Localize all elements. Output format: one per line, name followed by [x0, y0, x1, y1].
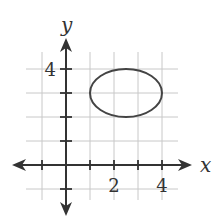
x-axis-label: x	[200, 153, 211, 177]
y-axis-label: y	[60, 13, 73, 37]
y-tick-label-4: 4	[45, 59, 56, 80]
x-axis	[12, 159, 192, 171]
coordinate-plane: 2 4 4 x y	[0, 0, 219, 221]
x-tick-label-4: 4	[156, 175, 167, 196]
ticks	[42, 69, 162, 189]
x-tick-label-2: 2	[108, 175, 119, 196]
